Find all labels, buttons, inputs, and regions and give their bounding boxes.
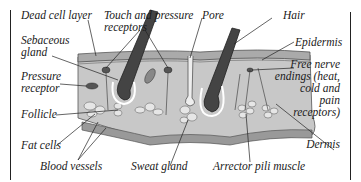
label-sebaceous-line2: gland: [21, 46, 47, 58]
label-epidermis: Epidermis: [295, 36, 342, 48]
label-pore: Pore: [202, 9, 224, 21]
label-dead-cell-layer: Dead cell layer: [21, 9, 92, 21]
label-free-nerve-line5: receptors): [293, 106, 340, 118]
label-free-nerve-line1: Free nerve: [290, 58, 340, 70]
label-hair: Hair: [283, 9, 305, 21]
label-dermis: Dermis: [306, 138, 340, 150]
label-touch-pressure-line2: receptors: [104, 21, 147, 33]
label-pressure-line2: receptor: [21, 82, 60, 94]
label-pressure-line1: Pressure: [21, 70, 61, 82]
label-free-nerve-line2: endings (heat,: [275, 70, 340, 82]
label-free-nerve-line3: cold and: [300, 82, 340, 94]
label-sweat-gland: Sweat gland: [131, 160, 188, 172]
label-sebaceous-line1: Sebaceous: [21, 34, 70, 46]
label-arrector-pili-muscle: Arrector pili muscle: [213, 160, 305, 172]
label-follicle: Follicle: [21, 108, 57, 120]
label-touch-pressure-line1: Touch and pressure: [104, 9, 193, 21]
label-free-nerve-line4: pain: [320, 94, 340, 106]
label-blood-vessels: Blood vessels: [40, 160, 102, 172]
label-fat-cells: Fat cells: [21, 139, 61, 151]
